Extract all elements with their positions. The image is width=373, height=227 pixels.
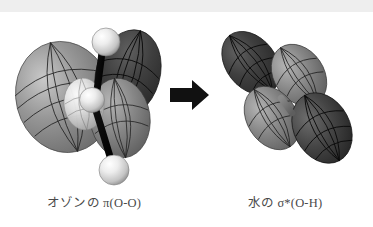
water-sigma-star-orbital-group xyxy=(210,20,364,174)
figure-page: オゾンの π(O-O) 水の σ*(O-H) xyxy=(0,0,373,227)
caption-right: 水の σ*(O-H) xyxy=(205,192,365,211)
atom-oxygen-bottom xyxy=(99,155,129,185)
atom-oxygen-center xyxy=(80,88,105,113)
caption-right-text: 水の σ*(O-H) xyxy=(248,196,323,210)
ozone-pi-orbital-group xyxy=(4,22,171,185)
caption-left: オゾンの π(O-O) xyxy=(8,192,180,211)
right-arrow-icon xyxy=(170,80,209,110)
caption-left-text: オゾンの π(O-O) xyxy=(47,196,141,210)
atom-oxygen-top xyxy=(92,28,120,56)
